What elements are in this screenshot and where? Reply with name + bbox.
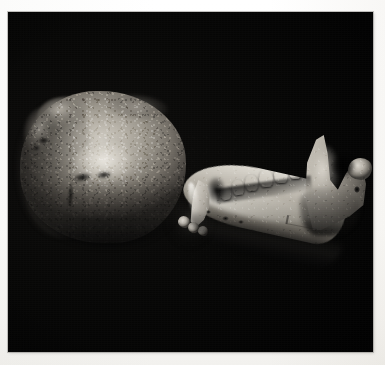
mandible-tooth-4	[258, 169, 273, 187]
mandible-tooth-6	[289, 163, 303, 179]
mandible-notch-shadow	[330, 154, 356, 178]
cranium-label: Cranium	[16, 85, 17, 86]
cranium-fissure-3	[38, 137, 49, 144]
mandible-ramus-shadow	[300, 188, 360, 236]
mandible: Mandible	[176, 130, 373, 280]
mandible-label: Mandible	[176, 130, 177, 131]
page-root: Cranium	[0, 0, 385, 365]
mandible-tooth-5	[274, 166, 289, 184]
cranium-fissure-4	[32, 145, 40, 151]
mandible-tooth-3	[244, 174, 259, 191]
specimen-photograph: Cranium	[8, 12, 373, 352]
mandibular-foramen	[354, 186, 360, 193]
cranium-inferior-shadow	[28, 177, 184, 247]
cranium: Cranium	[16, 85, 191, 250]
